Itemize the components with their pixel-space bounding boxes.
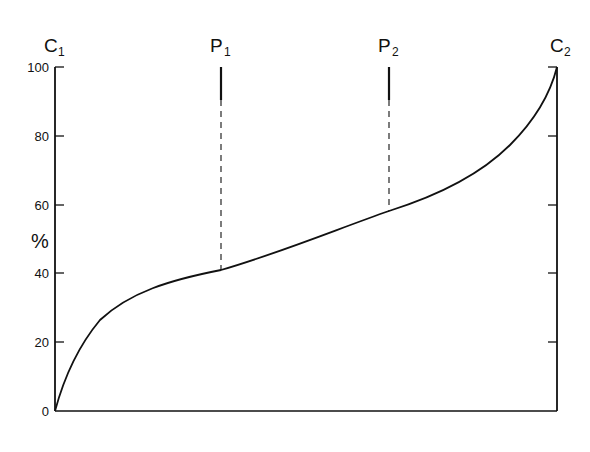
svg-text:P: P xyxy=(210,35,223,56)
svg-text:2: 2 xyxy=(564,45,571,59)
y-tick-60: 60 xyxy=(35,198,49,213)
c2-label: C 2 xyxy=(550,35,571,59)
p1-label: P 1 xyxy=(210,35,231,59)
data-curve xyxy=(55,67,557,411)
svg-text:2: 2 xyxy=(392,45,399,59)
y-tick-40: 40 xyxy=(35,266,49,281)
c1-label: C 1 xyxy=(44,35,65,59)
y-axis-label: % xyxy=(31,230,49,252)
y-tick-20: 20 xyxy=(35,335,49,350)
svg-text:P: P xyxy=(378,35,391,56)
svg-text:1: 1 xyxy=(58,45,65,59)
svg-text:C: C xyxy=(550,35,564,56)
percentage-curve-chart: 100 80 60 40 20 0 % C 1 P 1 P 2 C 2 xyxy=(0,0,590,452)
right-ticks xyxy=(548,67,557,342)
y-tick-80: 80 xyxy=(35,129,49,144)
y-tick-0: 0 xyxy=(42,404,49,419)
y-tick-100: 100 xyxy=(27,60,49,75)
left-ticks xyxy=(55,67,64,342)
svg-text:C: C xyxy=(44,35,58,56)
svg-text:1: 1 xyxy=(224,45,231,59)
p2-label: P 2 xyxy=(378,35,399,59)
